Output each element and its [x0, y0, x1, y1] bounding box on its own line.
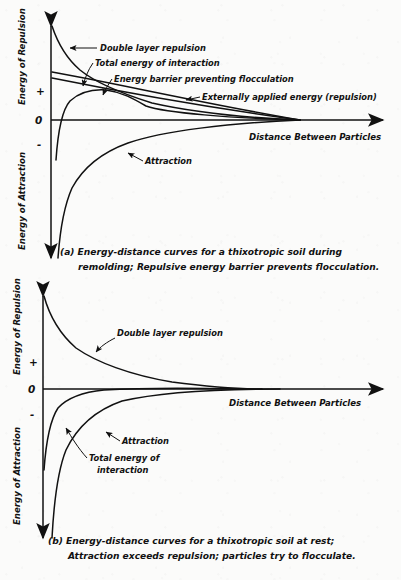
panel-b: Energy of Repulsion Energy of Attraction… [12, 278, 383, 561]
panel-b-tick-zero: 0 [28, 383, 35, 395]
curve-double-layer-repulsion-a [52, 26, 300, 120]
panel-b-y-axis-lower-label: Energy of Attraction [12, 427, 22, 525]
annotation-double-layer-repulsion-a: Double layer repulsion [100, 43, 206, 53]
leader-double-layer-repulsion-b [96, 338, 115, 352]
leader-attraction-b [106, 432, 120, 441]
curve-double-layer-repulsion-b [44, 296, 262, 389]
annotation-attraction-a: Attraction [144, 156, 192, 166]
panel-b-caption-line2: Attraction exceeds repulsion; particles … [67, 551, 356, 561]
annotation-total-energy-of-interaction-a: Total energy of interaction [95, 58, 220, 68]
panel-a-x-axis-label: Distance Between Particles [249, 132, 381, 142]
panel-b-y-axis-upper-label: Energy of Repulsion [12, 278, 22, 375]
panel-a-y-axis-upper-label: Energy of Repulsion [17, 8, 27, 105]
panel-a-caption-line1: (a) Energy-distance curves for a thixotr… [60, 247, 342, 257]
annotation-attraction-b: Attraction [121, 436, 169, 446]
annotation-total-energy-of-interaction-b-line2: interaction [97, 465, 148, 475]
panel-a-tick-plus: + [36, 85, 45, 97]
leader-total-energy-of-interaction-a [83, 63, 93, 86]
panel-b-tick-minus: - [30, 408, 34, 420]
annotation-externally-applied-energy-a: Externally applied energy (repulsion) [202, 92, 377, 102]
panel-a-caption-line2: remolding; Repulsive energy barrier prev… [78, 262, 379, 272]
curve-attraction-b [52, 389, 280, 538]
annotation-energy-barrier-a: Energy barrier preventing flocculation [114, 74, 294, 84]
annotation-double-layer-repulsion-b: Double layer repulsion [117, 328, 223, 338]
panel-a-tick-zero: 0 [35, 114, 42, 126]
panel-a: Energy of Repulsion Energy of Attraction… [17, 8, 383, 272]
panel-b-caption-line1: (b) Energy-distance curves for a thixotr… [48, 536, 335, 546]
annotation-total-energy-of-interaction-b-line1: Total energy of [89, 453, 161, 463]
panel-b-tick-plus: + [29, 356, 38, 368]
panel-a-y-axis-lower-label: Energy of Attraction [17, 152, 27, 250]
energy-distance-figure: Energy of Repulsion Energy of Attraction… [0, 0, 401, 580]
panel-a-tick-minus: - [37, 138, 41, 150]
panel-b-x-axis-label: Distance Between Particles [229, 398, 361, 408]
leader-attraction-a [128, 153, 143, 161]
